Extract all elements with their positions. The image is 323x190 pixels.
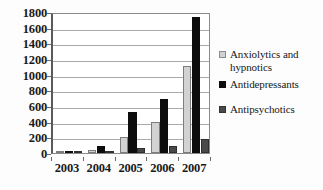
bar: [160, 99, 168, 153]
legend-swatch-icon-antidepressants: [219, 81, 226, 88]
x-axis-tick-mark: [115, 157, 116, 161]
bar: [183, 66, 191, 153]
bar-group-2003: [56, 14, 82, 153]
bar: [105, 151, 113, 153]
bar: [56, 151, 64, 153]
bar-group-2006: [151, 14, 177, 153]
bar: [74, 151, 82, 153]
x-axis-tick-label: 2004: [83, 162, 115, 175]
bar-chart: 180016001400120010008006004002000 200320…: [0, 0, 323, 190]
y-axis-tick-label: 1800: [1, 7, 47, 20]
plot-area: [51, 13, 210, 154]
legend-label-antipsychotics: Antipsychotics: [230, 103, 295, 116]
y-axis-tick-mark: [47, 154, 51, 155]
legend-swatch-icon-antipsychotics: [219, 106, 226, 113]
bar: [97, 146, 105, 153]
y-axis: 180016001400120010008006004002000: [0, 0, 47, 190]
x-axis-tick-label: 2007: [178, 162, 210, 175]
x-axis-tick-mark: [83, 157, 84, 161]
bar: [120, 137, 128, 153]
y-axis-tick-label: 800: [1, 85, 47, 98]
bar: [128, 112, 136, 153]
legend-label-anxiolytics: Anxiolytics andhypnotics: [230, 48, 298, 73]
y-axis-tick-label: 1400: [1, 38, 47, 51]
y-axis-tick-label: 0: [1, 148, 47, 161]
x-axis-tick-mark: [178, 157, 179, 161]
x-axis: 20032004200520062007: [51, 157, 210, 177]
bar: [88, 150, 96, 153]
bar: [201, 139, 209, 153]
y-axis-tick-label: 1000: [1, 70, 47, 83]
y-axis-tick-label: 1600: [1, 23, 47, 36]
legend-label-line1: Anxiolytics and: [230, 48, 298, 60]
x-axis-tick-label: 2005: [115, 162, 147, 175]
bar: [137, 148, 145, 153]
legend-item-antidepressants: Antidepressants: [219, 78, 323, 91]
y-axis-tick-label: 600: [1, 101, 47, 114]
bar: [65, 151, 73, 153]
y-axis-tick-label: 200: [1, 132, 47, 145]
x-axis-tick-label: 2003: [51, 162, 83, 175]
bar: [192, 17, 200, 153]
bar: [169, 146, 177, 153]
bar-group-2004: [88, 14, 114, 153]
x-axis-tick-mark: [146, 157, 147, 161]
y-axis-tick-label: 400: [1, 117, 47, 130]
x-axis-tick-label: 2006: [146, 162, 178, 175]
bar-group-2007: [183, 14, 209, 153]
x-axis-tick-mark: [51, 157, 52, 161]
legend-item-anxiolytics: Anxiolytics andhypnotics: [219, 48, 323, 73]
legend-label-line2: hypnotics: [230, 61, 272, 73]
y-axis-tick-label: 1200: [1, 54, 47, 67]
x-axis-tick-mark: [210, 157, 211, 161]
bar-group-2005: [120, 14, 146, 153]
legend-swatch-icon-anxiolytics: [219, 51, 226, 58]
chart-legend: Anxiolytics andhypnotics Antidepressants…: [219, 48, 323, 120]
legend-label-antidepressants: Antidepressants: [230, 78, 299, 91]
bar: [151, 122, 159, 153]
legend-item-antipsychotics: Antipsychotics: [219, 103, 323, 116]
